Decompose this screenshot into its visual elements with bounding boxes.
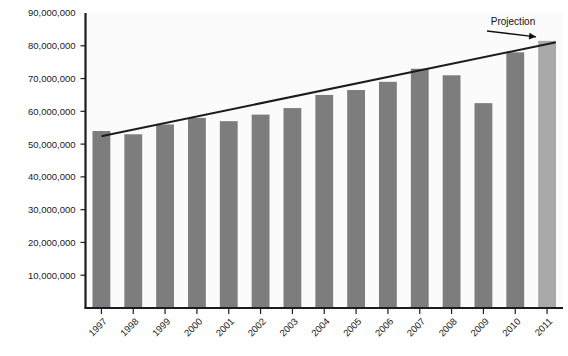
y-tick-label: 40,000,000	[28, 171, 76, 182]
y-tick-label: 80,000,000	[28, 40, 76, 51]
y-tick-label: 10,000,000	[28, 270, 76, 281]
y-tick-label: 60,000,000	[28, 106, 76, 117]
bar-2002	[252, 115, 270, 308]
y-tick-label: 50,000,000	[28, 139, 76, 150]
bar-2000	[188, 118, 206, 308]
y-tick-labels: 10,000,00020,000,00030,000,00040,000,000…	[28, 7, 76, 280]
bar-1998	[124, 134, 142, 308]
bar-2001	[220, 121, 238, 308]
y-tick-label: 90,000,000	[28, 7, 76, 18]
bar-1999	[156, 124, 174, 308]
y-tick-label: 70,000,000	[28, 73, 76, 84]
bar-2008	[443, 75, 461, 308]
bar-2004	[315, 95, 333, 308]
bar-1997	[93, 131, 111, 308]
bar-2006	[379, 82, 397, 308]
y-tick-label: 20,000,000	[28, 237, 76, 248]
y-tick-label: 30,000,000	[28, 204, 76, 215]
bar-2010	[506, 52, 524, 308]
bar-2007	[411, 69, 429, 308]
bar-2009	[475, 103, 493, 308]
bar-2003	[284, 108, 302, 308]
bar-2011	[538, 41, 556, 308]
chart-canvas: 10,000,00020,000,00030,000,00040,000,000…	[0, 0, 568, 356]
bar-2005	[347, 90, 365, 308]
projection-label: Projection	[491, 16, 535, 27]
bar-chart: 10,000,00020,000,00030,000,00040,000,000…	[0, 0, 568, 356]
